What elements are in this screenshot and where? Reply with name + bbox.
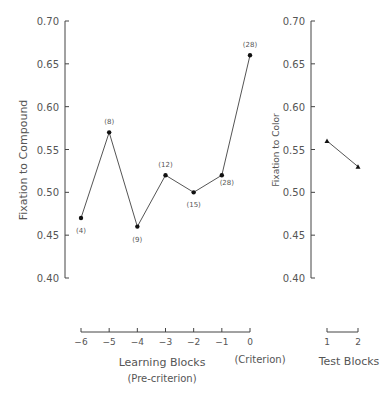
x-tick-label: 1: [324, 337, 330, 347]
data-point: [107, 130, 111, 134]
y-tick-label: 0.70: [283, 16, 305, 27]
x-tick-label: 0: [247, 337, 253, 347]
y-tick-label: 0.45: [283, 230, 305, 241]
left-y-axis: 0.400.450.500.550.600.650.70: [37, 16, 69, 284]
data-point: [163, 173, 167, 177]
figure-caption-clipped: [0, 394, 390, 401]
n-label: (9): [132, 236, 142, 244]
data-point: [135, 224, 139, 228]
n-label: (15): [186, 201, 201, 209]
left-x-axis-label: Learning Blocks: [119, 356, 206, 369]
right-x-axis: 12: [324, 328, 361, 347]
data-point: [248, 53, 252, 57]
left-panel: 0.400.450.500.550.600.650.70 Fixation to…: [17, 16, 286, 384]
n-label: (28): [243, 41, 258, 49]
y-tick-label: 0.65: [37, 59, 59, 70]
data-point: [191, 190, 195, 194]
figure: 0.400.450.500.550.600.650.70 Fixation to…: [0, 0, 390, 401]
data-point-triangle: [325, 138, 330, 143]
right-x-axis-label: Test Blocks: [318, 355, 380, 368]
x-tick-label: −2: [187, 337, 200, 347]
data-point: [79, 216, 83, 220]
y-tick-label: 0.55: [283, 145, 305, 156]
y-tick-label: 0.45: [37, 230, 59, 241]
y-tick-label: 0.50: [37, 187, 59, 198]
right-series: [325, 138, 361, 168]
y-tick-label: 0.50: [283, 187, 305, 198]
compound-line: [81, 55, 250, 226]
y-tick-label: 0.65: [283, 59, 305, 70]
x-tick-label: −4: [131, 337, 145, 347]
n-label: (4): [76, 227, 86, 235]
x-tick-label: −5: [103, 337, 116, 347]
n-label: (28): [220, 179, 235, 187]
color-line: [327, 141, 358, 167]
x-tick-label: 2: [355, 337, 361, 347]
left-x-axis-sublabel: (Pre-criterion): [127, 373, 196, 384]
right-y-axis: 0.400.450.500.550.600.650.70: [283, 16, 315, 284]
y-tick-label: 0.55: [37, 145, 59, 156]
y-tick-label: 0.40: [283, 273, 305, 284]
right-y-axis-label: Fixation to Color: [271, 113, 281, 187]
left-y-axis-label: Fixation to Compound: [17, 100, 30, 221]
y-tick-label: 0.40: [37, 273, 59, 284]
left-series: (4)(8)(9)(12)(15)(28)(28): [76, 41, 257, 243]
data-point: [220, 173, 224, 177]
n-label: (12): [158, 161, 173, 169]
y-tick-label: 0.60: [37, 102, 59, 113]
x-tick-label: −1: [215, 337, 228, 347]
right-panel: 0.400.450.500.550.600.650.70 Fixation to…: [271, 16, 380, 368]
y-tick-label: 0.60: [283, 102, 305, 113]
y-tick-label: 0.70: [37, 16, 59, 27]
x-tick-label: −3: [159, 337, 172, 347]
left-x-axis: −6−5−4−3−2−10: [74, 328, 253, 347]
x-tick-label: −6: [74, 337, 88, 347]
criterion-annotation: (Criterion): [234, 354, 285, 365]
n-label: (8): [104, 118, 114, 126]
